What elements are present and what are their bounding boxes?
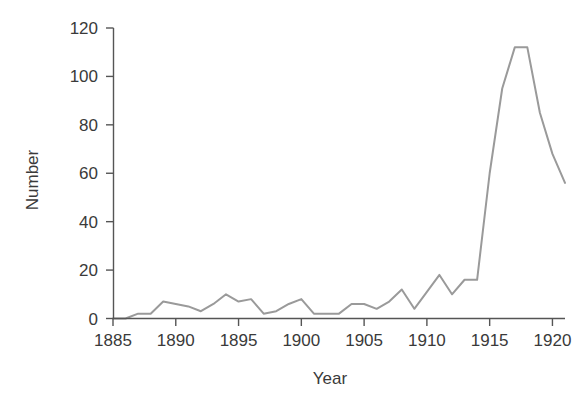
y-axis-tick-label: 60: [79, 164, 98, 183]
x-axis-tick-label: 1895: [220, 331, 258, 350]
x-axis-tick-label: 1900: [282, 331, 320, 350]
y-axis-tick-labels: 020406080100120: [70, 19, 98, 329]
x-axis-tick-labels: 18851890189519001905191019151920: [94, 331, 571, 350]
x-axis: 18851890189519001905191019151920 Year: [94, 319, 571, 389]
y-axis-tick-label: 80: [79, 116, 98, 135]
x-axis-tick-label: 1920: [534, 331, 572, 350]
y-axis-title: Number: [23, 149, 42, 210]
y-axis-tick-label: 20: [79, 261, 98, 280]
y-axis-ticks: [106, 28, 114, 319]
plot-area: [113, 47, 565, 318]
x-axis-tick-label: 1885: [94, 331, 132, 350]
x-axis-title: Year: [313, 369, 348, 388]
chart-figure: 18851890189519001905191019151920 Year 02…: [0, 0, 583, 404]
y-axis-tick-label: 120: [70, 19, 98, 38]
x-axis-tick-label: 1890: [157, 331, 195, 350]
x-axis-tick-label: 1915: [471, 331, 509, 350]
y-axis-tick-label: 0: [89, 310, 98, 329]
y-axis: 020406080100120 Number: [23, 19, 114, 329]
x-axis-tick-label: 1910: [408, 331, 446, 350]
line-chart: 18851890189519001905191019151920 Year 02…: [0, 0, 583, 404]
x-axis-tick-label: 1905: [345, 331, 383, 350]
y-axis-tick-label: 40: [79, 213, 98, 232]
x-axis-ticks: [113, 319, 552, 327]
data-series-line: [113, 47, 565, 318]
y-axis-tick-label: 100: [70, 67, 98, 86]
